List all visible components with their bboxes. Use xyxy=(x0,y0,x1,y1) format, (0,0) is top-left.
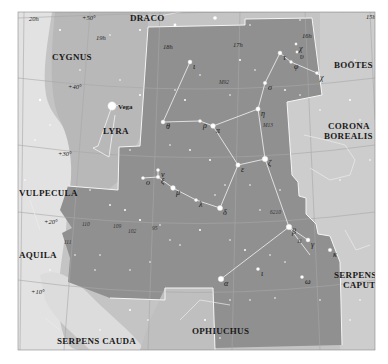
star xyxy=(149,261,151,263)
star xyxy=(79,69,81,71)
star xyxy=(339,179,341,181)
star xyxy=(109,34,111,36)
star xyxy=(213,16,217,20)
star-label: κ xyxy=(333,250,337,259)
star-label: Vega xyxy=(118,103,133,111)
star xyxy=(284,261,286,263)
star-label: υ xyxy=(300,52,304,61)
star xyxy=(274,297,276,299)
constellation-name: AQUILA xyxy=(19,250,57,260)
star xyxy=(109,204,111,206)
constellation-name: SERPENS xyxy=(334,270,377,280)
star xyxy=(174,89,176,91)
star xyxy=(124,209,126,211)
named-star xyxy=(290,61,293,64)
named-star xyxy=(218,276,224,282)
star-label: β xyxy=(291,227,296,236)
grid-label: 20h xyxy=(29,15,39,22)
named-star xyxy=(315,71,318,74)
star xyxy=(189,149,191,151)
star-chart: Vegaτχυφχισηθρπζενοξμλδβγωκαι M92M136210… xyxy=(0,0,388,364)
star-label: ξ xyxy=(161,177,165,186)
star xyxy=(229,94,231,96)
star xyxy=(319,299,321,301)
star xyxy=(169,144,171,146)
star xyxy=(59,29,61,31)
named-star xyxy=(161,120,165,124)
star xyxy=(169,239,171,241)
star xyxy=(219,337,221,339)
star xyxy=(269,254,271,256)
constellation-name: CAPUT xyxy=(343,280,376,290)
star xyxy=(24,179,26,181)
named-star xyxy=(156,168,159,171)
star-label: ι xyxy=(193,62,195,71)
star xyxy=(279,189,281,191)
constellation-name: OPHIUCHUS xyxy=(192,326,249,336)
catalog-label: 11 xyxy=(297,238,302,244)
star xyxy=(299,94,301,96)
constellation-name: VULPECULA xyxy=(19,188,78,198)
star xyxy=(139,94,141,96)
star xyxy=(244,249,246,251)
star-label: μ xyxy=(175,188,180,197)
star xyxy=(209,159,211,161)
catalog-label: 109 xyxy=(113,223,122,229)
constellation-name: BOÖTES xyxy=(334,60,373,70)
named-star xyxy=(217,205,222,210)
named-star xyxy=(198,119,201,122)
named-star xyxy=(296,51,298,53)
grid-label: +50° xyxy=(82,14,96,21)
star xyxy=(224,184,226,186)
star xyxy=(89,189,91,191)
star xyxy=(254,69,256,71)
named-star xyxy=(156,175,160,179)
named-star xyxy=(295,43,297,45)
star xyxy=(249,299,251,301)
grid-label: 19h xyxy=(96,34,106,41)
named-star xyxy=(263,81,267,85)
grid-label: 15h xyxy=(366,13,376,20)
named-star xyxy=(236,163,240,167)
grid-label: 17h xyxy=(233,41,243,48)
star-label: δ xyxy=(223,208,227,217)
star xyxy=(99,254,101,256)
star xyxy=(349,99,351,101)
named-star xyxy=(108,102,116,110)
star xyxy=(94,269,96,271)
grid-label: 18h xyxy=(163,43,173,50)
star xyxy=(199,74,201,76)
constellation-name: CORONA xyxy=(328,121,370,131)
star-label: ρ xyxy=(202,121,207,130)
star xyxy=(179,244,181,246)
star xyxy=(174,24,177,27)
star xyxy=(129,309,131,311)
catalog-label: 111 xyxy=(64,239,72,245)
constellation-name: CYGNUS xyxy=(52,52,92,62)
star xyxy=(369,159,371,161)
star xyxy=(214,194,216,196)
star xyxy=(229,239,231,241)
constellation-name: LYRA xyxy=(103,126,129,136)
catalog-label: 102 xyxy=(128,228,137,234)
star-label: φ xyxy=(294,62,299,71)
star xyxy=(74,254,76,256)
star xyxy=(159,224,161,226)
star xyxy=(239,59,241,61)
star-label: ω xyxy=(305,277,311,286)
constellation-name: DRACO xyxy=(130,13,165,23)
star xyxy=(129,269,131,271)
star xyxy=(259,209,261,211)
star-label: θ xyxy=(166,122,170,131)
constellation-name: BOREALIS xyxy=(324,131,373,141)
star xyxy=(249,24,251,26)
star xyxy=(49,269,51,271)
star xyxy=(184,99,186,101)
named-star xyxy=(300,275,303,278)
grid-label: +40° xyxy=(68,83,82,90)
named-star xyxy=(278,51,282,55)
star xyxy=(284,89,286,91)
star-label: ο xyxy=(146,178,150,187)
catalog-label: 110 xyxy=(82,221,90,227)
grid-label: +10° xyxy=(31,288,45,295)
